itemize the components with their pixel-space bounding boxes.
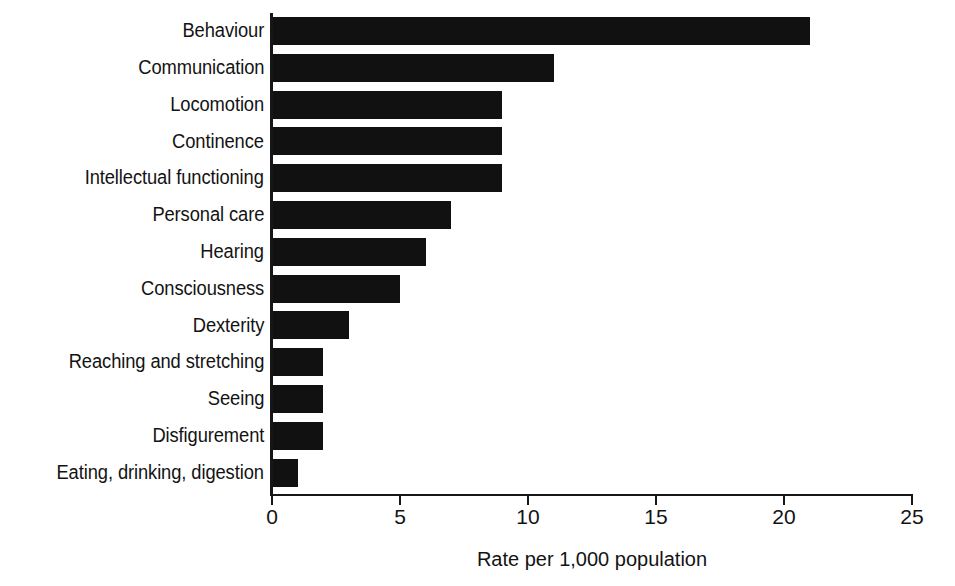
category-label: Communication — [138, 58, 268, 78]
bar-row — [272, 458, 912, 488]
x-axis-tick-label: 20 — [772, 506, 795, 527]
x-axis-tick-label: 25 — [900, 506, 923, 527]
bar — [272, 422, 323, 450]
x-axis-title: Rate per 1,000 population — [272, 549, 912, 569]
x-axis-tick — [399, 496, 401, 505]
bar-row — [272, 90, 912, 120]
bar-row — [272, 347, 912, 377]
category-label: Dexterity — [193, 316, 268, 336]
x-axis-tick — [271, 496, 273, 505]
x-axis-tick-label: 5 — [394, 506, 406, 527]
category-label: Consciousness — [141, 279, 268, 299]
x-axis-line — [270, 494, 913, 496]
category-label-row: Dexterity — [0, 310, 268, 340]
x-axis-tick-label: 15 — [644, 506, 667, 527]
category-label: Disfigurement — [152, 426, 268, 446]
category-label: Locomotion — [170, 95, 268, 115]
x-axis-tick — [783, 496, 785, 505]
x-axis-tick — [527, 496, 529, 505]
bar — [272, 348, 323, 376]
bar-row — [272, 163, 912, 193]
bar-row — [272, 274, 912, 304]
bar-row — [272, 16, 912, 46]
y-axis-line — [270, 13, 273, 496]
bar-row — [272, 384, 912, 414]
bar-row — [272, 200, 912, 230]
x-axis-tick — [655, 496, 657, 505]
category-label-row: Seeing — [0, 384, 268, 414]
category-label: Reaching and stretching — [69, 352, 268, 372]
category-label-row: Communication — [0, 53, 268, 83]
bar — [272, 385, 323, 413]
category-label-row: Locomotion — [0, 90, 268, 120]
category-label-row: Intellectual functioning — [0, 163, 268, 193]
bar-row — [272, 237, 912, 267]
bar — [272, 54, 554, 82]
bar-row — [272, 421, 912, 451]
plot-area — [272, 13, 912, 495]
category-label-row: Eating, drinking, digestion — [0, 458, 268, 488]
category-label-row: Continence — [0, 126, 268, 156]
category-label: Behaviour — [183, 21, 268, 41]
bar — [272, 238, 426, 266]
bar — [272, 164, 502, 192]
x-axis-tick — [911, 496, 913, 505]
bar — [272, 17, 810, 45]
bar — [272, 201, 451, 229]
category-label-row: Personal care — [0, 200, 268, 230]
category-label-row: Reaching and stretching — [0, 347, 268, 377]
category-label: Seeing — [208, 389, 268, 409]
category-axis-labels: BehaviourCommunicationLocomotionContinen… — [0, 13, 268, 495]
category-label-row: Disfigurement — [0, 421, 268, 451]
bar-row — [272, 126, 912, 156]
category-label-row: Behaviour — [0, 16, 268, 46]
category-label: Eating, drinking, digestion — [57, 463, 268, 483]
category-label: Personal care — [152, 205, 268, 225]
bar-row — [272, 53, 912, 83]
category-label: Hearing — [201, 242, 268, 262]
bar-row — [272, 310, 912, 340]
x-axis-tick-label: 10 — [516, 506, 539, 527]
bar — [272, 459, 298, 487]
bar — [272, 311, 349, 339]
category-label-row: Consciousness — [0, 274, 268, 304]
x-axis-tick-label: 0 — [266, 506, 278, 527]
bar — [272, 127, 502, 155]
bar — [272, 91, 502, 119]
category-label: Continence — [172, 132, 268, 152]
category-label-row: Hearing — [0, 237, 268, 267]
category-label: Intellectual functioning — [85, 168, 268, 188]
bar-chart: BehaviourCommunicationLocomotionContinen… — [0, 0, 955, 586]
bar — [272, 275, 400, 303]
